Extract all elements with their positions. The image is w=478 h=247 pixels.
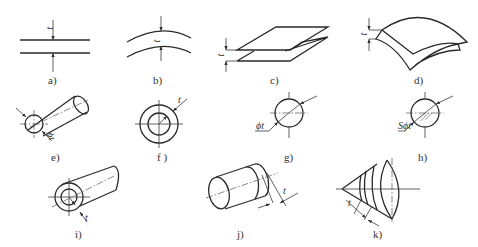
label-g: g) xyxy=(284,152,293,163)
panel-d-curved-surfaces xyxy=(369,18,467,71)
panel-h-sphere xyxy=(398,92,453,138)
tolerance-zone-diagram: t t t t ϕt t ϕt Sϕt t t t a) b) c) d) e)… xyxy=(0,0,478,247)
panel-k-cone xyxy=(336,158,420,226)
label-e: e) xyxy=(51,152,60,163)
panel-g-circle xyxy=(255,92,317,138)
dimension-i: t xyxy=(85,213,88,223)
label-k: k) xyxy=(373,229,382,240)
label-d: d) xyxy=(414,75,423,86)
panel-f-concentric-circles xyxy=(135,99,187,148)
dimension-c: t xyxy=(216,54,226,57)
panel-i-coaxial-cylinders xyxy=(48,166,119,222)
label-a: a) xyxy=(48,75,57,86)
dimension-k: t xyxy=(348,198,351,208)
dimension-b: t xyxy=(152,40,162,43)
dimension-d: t xyxy=(359,33,369,36)
dimension-f: t xyxy=(178,95,181,105)
label-j: j) xyxy=(237,229,244,240)
label-h: h) xyxy=(418,152,427,163)
label-b: b) xyxy=(153,75,162,86)
label-f: f ) xyxy=(157,152,167,163)
dimension-h: Sϕt xyxy=(398,121,411,131)
label-i: i) xyxy=(75,229,82,240)
dimension-j: t xyxy=(283,186,286,196)
panel-c-parallel-planes xyxy=(226,27,328,72)
dimension-g: ϕt xyxy=(256,121,264,131)
label-c: c) xyxy=(270,75,279,86)
dimension-a: t xyxy=(45,27,55,30)
